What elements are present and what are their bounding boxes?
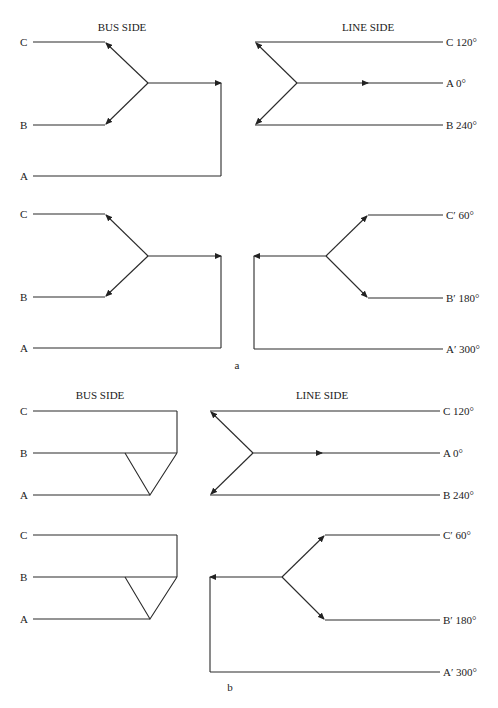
- phasor-c-arrow: [211, 412, 253, 453]
- phasor-c-arrow: [256, 43, 297, 83]
- line-label-a-prime: A′ 300°: [446, 343, 480, 355]
- bus-label-b: B: [20, 291, 27, 303]
- phasor-c-arrow: [106, 215, 148, 256]
- line-side-title: LINE SIDE: [296, 389, 349, 401]
- phasor-b-arrow: [106, 256, 148, 296]
- panel-a-lower-bus-wye: C B A: [20, 208, 221, 354]
- line-label-b: B 240°: [443, 489, 474, 501]
- panel-b-lower-line-wye: C′ 60° B′ 180° A′ 300°: [210, 529, 477, 678]
- panel-caption: a: [235, 359, 240, 371]
- phasor-b-arrow: [256, 83, 297, 124]
- panel-b: BUS SIDE LINE SIDE C B A C 120° A 0° B 2…: [20, 389, 477, 693]
- panel-b-upper-bus-delta: C B A: [20, 405, 177, 501]
- line-label-c: C 120°: [446, 36, 477, 48]
- phasor-b-prime-arrow: [282, 577, 324, 619]
- bus-label-b: B: [20, 447, 27, 459]
- bus-side-title: BUS SIDE: [98, 21, 147, 33]
- bus-label-b: B: [20, 571, 27, 583]
- phasor-b-arrow: [211, 453, 253, 494]
- phasor-b-arrow: [106, 83, 148, 124]
- bus-label-a: A: [20, 489, 28, 501]
- panel-a: BUS SIDE LINE SIDE C B A C 120° A 0° B 2…: [20, 21, 480, 371]
- delta-triangle: [125, 577, 177, 619]
- bus-label-a: A: [20, 613, 28, 625]
- panel-b-lower-bus-delta: C B A: [20, 529, 177, 625]
- panel-b-upper-line-wye: C 120° A 0° B 240°: [210, 405, 474, 501]
- delta-triangle: [125, 453, 177, 495]
- bus-label-b: B: [20, 119, 27, 131]
- line-label-c: C 120°: [443, 405, 474, 417]
- phasor-c-arrow: [106, 43, 148, 83]
- bus-label-c: C: [20, 208, 27, 220]
- bus-label-a: A: [20, 342, 28, 354]
- line-label-a: A 0°: [446, 77, 466, 89]
- panel-a-lower-line-wye: C′ 60° B′ 180° A′ 300°: [254, 209, 480, 355]
- line-label-b-prime: B′ 180°: [446, 292, 479, 304]
- panel-a-upper-bus-wye: C B A: [20, 36, 221, 182]
- phasor-c-prime-arrow: [282, 536, 324, 577]
- phase-connection-diagram: BUS SIDE LINE SIDE C B A C 120° A 0° B 2…: [0, 0, 498, 708]
- phasor-c-prime-arrow: [326, 216, 367, 256]
- bus-side-title: BUS SIDE: [76, 389, 125, 401]
- line-label-c-prime: C′ 60°: [443, 529, 471, 541]
- bus-label-c: C: [20, 529, 27, 541]
- panel-caption: b: [227, 681, 233, 693]
- line-label-b: B 240°: [446, 119, 477, 131]
- line-side-title: LINE SIDE: [342, 21, 395, 33]
- bus-label-c: C: [20, 36, 27, 48]
- line-label-a: A 0°: [443, 447, 463, 459]
- bus-label-a: A: [20, 170, 28, 182]
- line-label-a-prime: A′ 300°: [443, 666, 477, 678]
- phasor-b-prime-arrow: [326, 256, 367, 297]
- line-label-b-prime: B′ 180°: [443, 614, 476, 626]
- line-label-c-prime: C′ 60°: [446, 209, 474, 221]
- bus-label-c: C: [20, 405, 27, 417]
- panel-a-upper-line-wye: C 120° A 0° B 240°: [255, 36, 477, 131]
